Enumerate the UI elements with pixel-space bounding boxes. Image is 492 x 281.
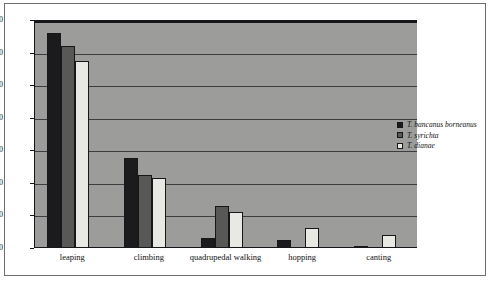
bar [61,46,75,248]
bar-group [201,20,243,248]
legend-label: T. bancanus borneanus [407,120,477,129]
bar [215,206,229,248]
bar [138,175,152,248]
bar [152,178,166,248]
legend-swatch-icon [397,143,403,149]
bar-group [354,20,396,248]
bar-group [47,20,89,248]
y-tick-mark [30,248,34,249]
legend-label: T. syrichta [407,131,439,140]
legend-swatch-icon [397,132,403,138]
bar [47,33,61,248]
y-tick-label: 20 [0,179,3,187]
y-tick-label: 0 [0,244,3,252]
x-tick-label: canting [328,252,429,262]
y-tick-label: 70 [0,16,3,24]
y-tick-label: 30 [0,146,3,154]
legend-item: T. bancanus borneanus [397,120,485,129]
bar [305,228,319,248]
legend-item: T. syrichta [397,131,485,140]
y-tick-label: 50 [0,81,3,89]
y-axis: 010203040506070 [5,4,34,249]
bar-group [124,20,166,248]
chart-figure: 010203040506070 leapingclimbingquadruped… [4,3,486,276]
bar [354,246,368,248]
y-tick-label: 40 [0,114,3,122]
y-tick-label: 60 [0,49,3,57]
bar [229,212,243,248]
bar-group [277,20,319,248]
bar [75,61,89,248]
legend-label: T. dianae [407,141,435,150]
legend-item: T. dianae [397,141,485,150]
x-axis-labels: leapingclimbingquadrupedal walkinghoppin… [34,252,417,266]
legend-swatch-icon [397,122,403,128]
bar-groups [34,20,417,248]
y-tick-label: 10 [0,211,3,219]
bar [201,238,215,248]
bar [382,235,396,248]
chart-legend: T. bancanus borneanusT. syrichtaT. diana… [397,120,485,152]
bar [277,240,291,248]
bar [124,158,138,248]
